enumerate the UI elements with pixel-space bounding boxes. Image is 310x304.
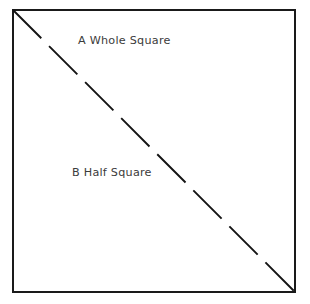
figure-canvas: A Whole Square B Half Square — [0, 0, 310, 304]
label-half-square: B Half Square — [72, 167, 152, 178]
diagonal-dashed-line — [13, 10, 295, 292]
label-whole-square: A Whole Square — [78, 35, 171, 46]
